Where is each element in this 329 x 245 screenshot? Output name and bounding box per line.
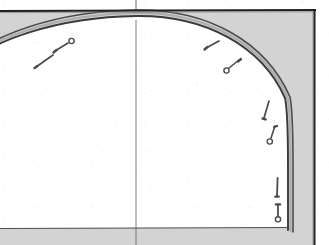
tunnel-cross-section-figure [0, 0, 329, 245]
ground-surface-line [0, 10, 316, 11]
bolt-plate [263, 119, 266, 120]
bolt-plate [35, 66, 38, 68]
bolt-shank [277, 178, 278, 196]
bolt-plate [274, 126, 277, 127]
drawing-canvas [0, 0, 329, 245]
